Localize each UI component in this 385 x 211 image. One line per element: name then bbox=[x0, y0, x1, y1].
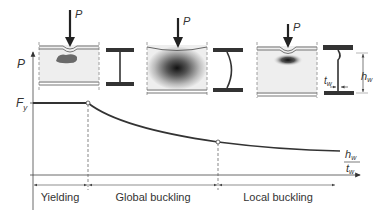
panel-global-buckling: P bbox=[147, 15, 207, 96]
region-label-local-buckling: Local buckling bbox=[243, 191, 313, 203]
web-buckling-diagram: P P P bbox=[0, 0, 385, 211]
region-label-global-buckling: Global buckling bbox=[115, 191, 190, 203]
transition-point bbox=[86, 101, 90, 105]
i-section-global-buckling bbox=[213, 48, 243, 92]
load-label: P bbox=[293, 21, 301, 33]
load-label: P bbox=[75, 8, 83, 20]
panel-local-buckling: P bbox=[257, 21, 317, 98]
load-label: P bbox=[183, 15, 191, 27]
x-axis-label-numerator: hw bbox=[345, 148, 357, 161]
region-label-yielding: Yielding bbox=[41, 191, 80, 203]
resistance-curve bbox=[33, 101, 340, 190]
region-ranges: Yielding Global buckling Local buckling bbox=[34, 185, 335, 203]
panel-yielding: P bbox=[39, 8, 99, 90]
yield-level-label: Fy bbox=[16, 96, 28, 112]
web-height-label: hw bbox=[361, 70, 373, 83]
transition-point bbox=[216, 140, 220, 144]
i-section-yielding bbox=[106, 48, 134, 86]
x-axis-label-denominator: tw bbox=[346, 162, 355, 175]
y-axis-label: P bbox=[17, 57, 25, 71]
web-thickness-label: tw bbox=[324, 75, 333, 87]
i-section-local-buckling: tw hw bbox=[323, 45, 373, 95]
